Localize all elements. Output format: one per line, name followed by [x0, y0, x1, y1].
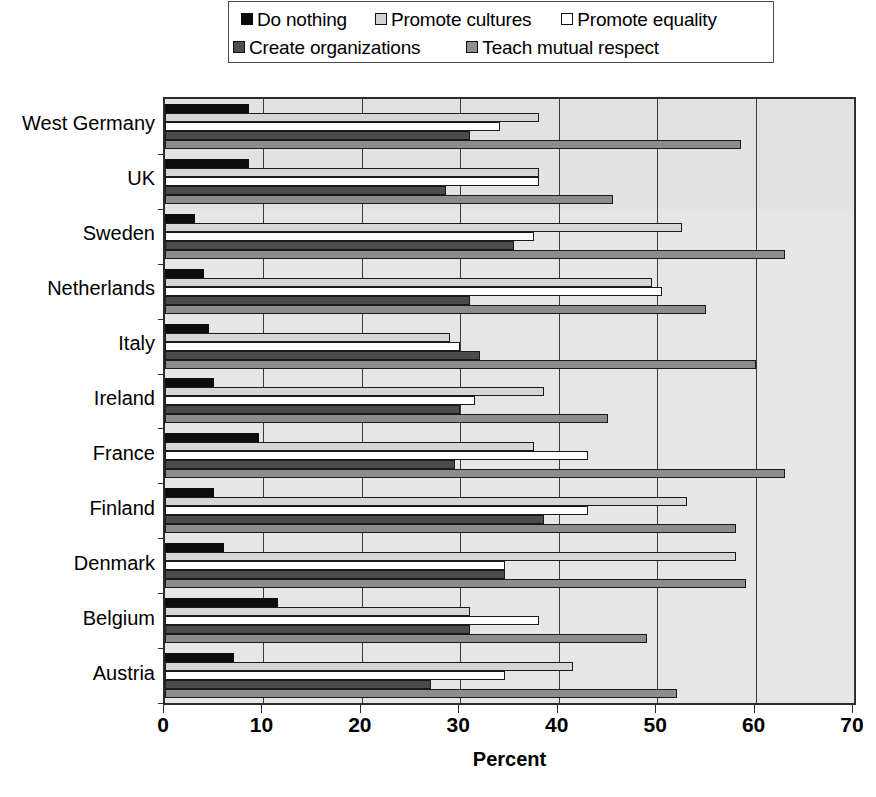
y-axis-label-uk: UK — [127, 168, 155, 188]
x-axis-tick-70 — [852, 705, 853, 713]
bar — [165, 250, 785, 259]
bar-slot — [165, 442, 854, 451]
bar-group — [165, 154, 854, 209]
y-axis-labels: West GermanyUKSwedenNetherlandsItalyIrel… — [0, 97, 155, 705]
y-axis-label-netherlands: Netherlands — [47, 278, 155, 298]
x-axis-tick-label-60: 60 — [742, 714, 765, 735]
bar — [165, 333, 450, 342]
bar-slot — [165, 168, 854, 177]
x-axis: 010203040506070 — [163, 705, 856, 745]
bar — [165, 671, 505, 680]
bar — [165, 396, 475, 405]
bar — [165, 104, 249, 113]
y-axis-label-belgium: Belgium — [83, 608, 155, 628]
bar-slot — [165, 625, 854, 634]
bar — [165, 342, 460, 351]
bar-slot — [165, 414, 854, 423]
y-axis-tick — [158, 483, 165, 484]
bar — [165, 360, 756, 369]
bar — [165, 579, 746, 588]
y-axis-tick — [158, 648, 165, 649]
legend-entry-promote-cultures: Promote cultures — [375, 10, 531, 29]
legend-row-top: Do nothing Promote cultures Promote equa… — [229, 5, 773, 33]
bar — [165, 378, 214, 387]
y-axis-tick — [158, 593, 165, 594]
y-axis-label-denmark: Denmark — [74, 553, 155, 573]
x-axis-tick-60 — [754, 705, 755, 713]
y-axis-tick — [158, 428, 165, 429]
legend-swatch-promote-cultures-icon — [375, 13, 387, 25]
bar-slot — [165, 104, 854, 113]
bar — [165, 387, 544, 396]
y-axis-tick — [158, 703, 165, 704]
y-axis-label-west-germany: West Germany — [22, 113, 155, 133]
bar-slot — [165, 195, 854, 204]
bar — [165, 506, 588, 515]
y-axis-label-austria: Austria — [93, 663, 155, 683]
x-axis-tick-label-0: 0 — [157, 714, 169, 735]
bar-slot — [165, 333, 854, 342]
bar-slot — [165, 634, 854, 643]
x-axis-tick-20 — [360, 705, 361, 713]
bar — [165, 241, 514, 250]
legend-swatch-promote-equality-icon — [561, 13, 573, 25]
bar-group — [165, 374, 854, 429]
bar — [165, 607, 470, 616]
bar — [165, 469, 785, 478]
bar — [165, 689, 677, 698]
bar — [165, 351, 480, 360]
bar-slot — [165, 131, 854, 140]
bar — [165, 543, 224, 552]
bar — [165, 195, 613, 204]
legend-row-bottom: Create organizations Teach mutual respec… — [229, 33, 773, 61]
legend-swatch-create-organizations-icon — [233, 41, 245, 53]
gridline-70 — [854, 99, 855, 703]
y-axis-label-france: France — [93, 443, 155, 463]
legend-swatch-teach-mutual-respect-icon — [466, 41, 478, 53]
legend-label-promote-equality: Promote equality — [577, 10, 716, 29]
bar — [165, 140, 741, 149]
bar — [165, 168, 539, 177]
bar — [165, 414, 608, 423]
bar-group — [165, 648, 854, 703]
legend-label-promote-cultures: Promote cultures — [391, 10, 531, 29]
bar — [165, 451, 588, 460]
bar-slot — [165, 122, 854, 131]
bar-group — [165, 264, 854, 319]
bar-slot — [165, 671, 854, 680]
x-axis-tick-10 — [261, 705, 262, 713]
bar-slot — [165, 159, 854, 168]
bar — [165, 122, 500, 131]
x-axis-tick-0 — [163, 705, 164, 713]
bar — [165, 305, 706, 314]
bar — [165, 662, 573, 671]
bar-slot — [165, 223, 854, 232]
bar-slot — [165, 387, 854, 396]
bar-group — [165, 99, 854, 154]
bar — [165, 561, 505, 570]
bar — [165, 515, 544, 524]
x-axis-tick-40 — [557, 705, 558, 713]
bar — [165, 159, 249, 168]
bar — [165, 552, 736, 561]
bar-slot — [165, 177, 854, 186]
bar — [165, 616, 539, 625]
bar — [165, 570, 505, 579]
bar-slot — [165, 433, 854, 442]
bar-group — [165, 593, 854, 648]
bar-slot — [165, 214, 854, 223]
x-axis-tick-label-40: 40 — [545, 714, 568, 735]
bar — [165, 433, 259, 442]
bar — [165, 653, 234, 662]
bar-slot — [165, 113, 854, 122]
x-axis-tick-label-30: 30 — [447, 714, 470, 735]
bar-group — [165, 538, 854, 593]
bar-slot — [165, 524, 854, 533]
bar — [165, 278, 652, 287]
bar-slot — [165, 232, 854, 241]
bar — [165, 497, 687, 506]
bar — [165, 131, 470, 140]
bar — [165, 214, 195, 223]
legend-label-do-nothing: Do nothing — [257, 10, 347, 29]
y-axis-label-italy: Italy — [118, 333, 155, 353]
